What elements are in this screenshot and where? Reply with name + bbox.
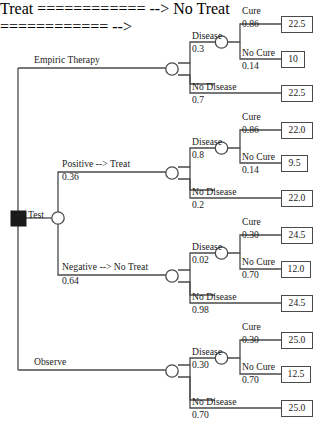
payoff-box-g3-nocure: 12.0 xyxy=(281,261,311,278)
branch-label-g4-disease: Disease xyxy=(192,347,222,357)
edge-g4-disease-lower xyxy=(190,365,215,400)
branch-label-g1-disease: Disease xyxy=(192,31,222,41)
branch-label-g3-disease: Disease xyxy=(192,242,222,252)
payoff-box-g4-nodisease: 25.0 xyxy=(281,400,313,417)
tree-edges-canvas: Treat ===== --> No Treat ===== --> xyxy=(0,0,324,439)
branch-prob-g1-nodisease: 0.7 xyxy=(192,95,204,105)
payoff-box-g3-cure: 24.5 xyxy=(281,227,313,244)
chance-node-g4-disease[interactable] xyxy=(166,365,178,377)
payoff-box-g3-nodisease: 24.5 xyxy=(281,295,313,312)
payoff-box-g2-nocure: 9.5 xyxy=(281,155,308,172)
branch-label-g2-disease: Disease xyxy=(192,137,222,147)
branch-label-g2-cure: Cure xyxy=(242,112,261,122)
branch-label-g3-nocure: No Cure xyxy=(242,257,275,267)
branch-prob-g1-nocure: 0.14 xyxy=(242,61,259,71)
node-label-test: Test xyxy=(28,210,44,220)
branch-prob-g3-nodisease: 0.98 xyxy=(192,305,209,315)
branch-prob-g2-disease: 0.8 xyxy=(192,150,204,160)
branch-label-g1-nocure: No Cure xyxy=(242,48,275,58)
branch-label-observe: Observe xyxy=(34,357,66,367)
payoff-box-g2-cure: 22.0 xyxy=(281,122,313,139)
root-decision-node[interactable] xyxy=(11,211,26,226)
branch-prob-g4-cure: 0.30 xyxy=(242,335,259,345)
chance-node-g3-disease[interactable] xyxy=(166,270,178,282)
branch-prob-negative-notreat: 0.64 xyxy=(62,276,79,286)
branch-label-g4-cure: Cure xyxy=(242,322,261,332)
chance-node-test[interactable] xyxy=(52,212,64,224)
branch-prob-g3-disease: 0.02 xyxy=(192,255,209,265)
branch-label-g2-nocure: No Cure xyxy=(242,152,275,162)
payoff-box-g1-nocure: 10 xyxy=(281,51,305,68)
branch-label-g3-nodisease: No Disease xyxy=(192,292,236,302)
payoff-box-g4-cure: 25.0 xyxy=(281,332,313,349)
branch-prob-positive-treat: 0.36 xyxy=(62,172,79,182)
branch-label-g3-cure: Cure xyxy=(242,217,261,227)
branch-prob-g2-nodisease: 0.2 xyxy=(192,200,204,210)
branch-label-positive-treat: Positive --> Treat xyxy=(62,159,130,169)
branch-prob-g3-cure: 0.30 xyxy=(242,230,259,240)
branch-label-g1-cure: Cure xyxy=(242,6,261,16)
branch-label-g2-nodisease: No Disease xyxy=(192,187,236,197)
branch-label-g1-nodisease: No Disease xyxy=(192,82,236,92)
payoff-box-g1-nodisease: 22.5 xyxy=(281,85,313,102)
branch-prob-g2-nocure: 0.14 xyxy=(242,165,259,175)
branch-label-empiric-therapy: Empiric Therapy xyxy=(34,55,100,65)
branch-prob-g4-nocure: 0.70 xyxy=(242,375,259,385)
payoff-box-g2-nodisease: 22.0 xyxy=(281,190,313,207)
branch-label-g4-nodisease: No Disease xyxy=(192,397,236,407)
branch-prob-g4-nodisease: 0.70 xyxy=(192,410,209,420)
decision-tree-diagram: Treat ===== --> No Treat ===== --> xyxy=(0,0,324,439)
payoff-box-g1-cure: 22.5 xyxy=(281,16,313,33)
branch-prob-g4-disease: 0.30 xyxy=(192,360,209,370)
chance-node-g2-disease[interactable] xyxy=(166,167,178,179)
chance-node-g1-disease[interactable] xyxy=(166,63,178,75)
branch-prob-g3-nocure: 0.70 xyxy=(242,270,259,280)
branch-label-g4-nocure: No Cure xyxy=(242,362,275,372)
branch-label-negative-notreat: Negative --> No Treat xyxy=(62,262,148,272)
payoff-box-g4-nocure: 12.5 xyxy=(281,366,311,383)
branch-prob-g1-cure: 0.86 xyxy=(242,19,259,29)
branch-prob-g1-disease: 0.3 xyxy=(192,44,204,54)
branch-prob-g2-cure: 0.86 xyxy=(242,125,259,135)
